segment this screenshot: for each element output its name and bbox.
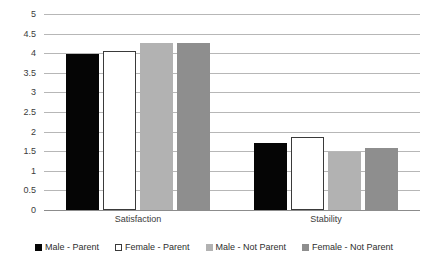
legend-label: Male - Not Parent [216,243,287,252]
bar [140,43,173,210]
y-axis-tick-label: 5 [31,10,36,19]
bar-group [44,14,232,210]
bar-groups [44,14,420,210]
y-axis-tick-label: 2.5 [23,108,36,117]
legend-item[interactable]: Male - Not Parent [206,243,287,252]
legend-item[interactable]: Male - Parent [35,243,99,252]
y-axis-tick-label: 0.5 [23,186,36,195]
y-axis-tick-labels: 54.543.532.521.510.50 [0,14,40,210]
y-axis-tick-label: 2 [31,127,36,136]
y-axis-tick-label: 3 [31,88,36,97]
bar [103,51,136,210]
bars [232,14,420,210]
legend-swatch-icon [302,244,309,251]
x-axis-category-labels: SatisfactionStability [44,212,420,230]
x-axis-category-label: Satisfaction [44,212,232,230]
bar [254,143,287,210]
legend-item[interactable]: Female - Parent [115,243,190,252]
bar [328,152,361,210]
legend-label: Female - Parent [125,243,190,252]
y-axis-tick-label: 1.5 [23,147,36,156]
legend-swatch-icon [35,244,42,251]
legend-swatch-icon [206,244,213,251]
gridline [44,210,420,211]
chart-legend: Male - ParentFemale - ParentMale - Not P… [0,238,428,256]
bar [365,148,398,210]
y-axis-tick-label: 4 [31,49,36,58]
legend-label: Male - Parent [45,243,99,252]
bar-chart: 54.543.532.521.510.50 SatisfactionStabil… [0,0,428,265]
legend-swatch-icon [115,244,122,251]
bars [44,14,232,210]
bar-group [232,14,420,210]
legend-item[interactable]: Female - Not Parent [302,243,393,252]
bar [66,54,99,210]
bar [291,137,324,210]
y-axis-tick-label: 0 [31,206,36,215]
y-axis-tick-label: 4.5 [23,29,36,38]
plot-area [44,14,420,210]
bar [177,43,210,210]
y-axis-tick-label: 3.5 [23,68,36,77]
x-axis-category-label: Stability [232,212,420,230]
y-axis-tick-label: 1 [31,166,36,175]
legend-label: Female - Not Parent [312,243,393,252]
